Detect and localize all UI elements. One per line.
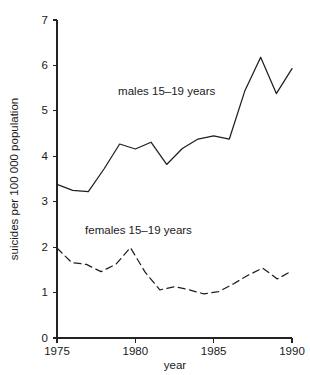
- y-tick-label: 6: [42, 59, 48, 71]
- series-label-males: males 15–19 years: [118, 85, 215, 97]
- y-tick-label: 3: [42, 195, 48, 207]
- y-tick-label: 0: [42, 332, 48, 344]
- x-tick-label: 1975: [44, 345, 70, 357]
- x-axis-ticks: 1975198019851990: [44, 338, 305, 357]
- x-tick-label: 1990: [279, 345, 305, 357]
- y-tick-label: 2: [42, 241, 48, 253]
- y-tick-label: 5: [42, 104, 48, 116]
- series-line-females: [57, 248, 292, 294]
- x-axis-title: year: [164, 359, 187, 371]
- series-label-females: females 15–19 years: [85, 224, 192, 236]
- x-tick-label: 1985: [201, 345, 227, 357]
- line-chart: 01234567 1975198019851990 males 15–19 ye…: [0, 0, 310, 375]
- y-axis-title: suicides per 100 000 population: [8, 98, 20, 260]
- chart-container: 01234567 1975198019851990 males 15–19 ye…: [0, 0, 310, 375]
- x-tick-label: 1980: [123, 345, 149, 357]
- series-line-males: [57, 57, 292, 191]
- y-axis-ticks: 01234567: [42, 14, 57, 344]
- y-tick-label: 4: [42, 150, 49, 162]
- y-tick-label: 7: [42, 14, 48, 26]
- y-tick-label: 1: [42, 286, 48, 298]
